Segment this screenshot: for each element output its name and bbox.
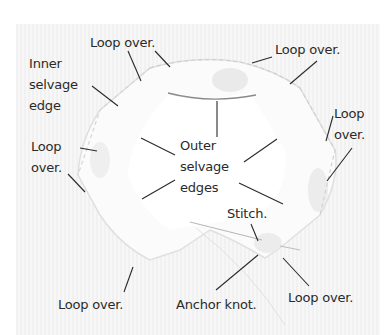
label-loop-over-right-line2: over.: [334, 127, 365, 143]
label-loop-over-left-line1: Loop: [31, 139, 62, 155]
label-inner-selvage-edge: Inner selvage edge: [29, 56, 78, 114]
label-outer-selvage-edges-line3: edges: [180, 180, 229, 196]
label-inner-selvage-edge-line3: edge: [29, 98, 78, 114]
label-loop-over-right: Loop over.: [334, 106, 365, 143]
label-inner-selvage-edge-line2: selvage: [29, 77, 78, 93]
label-outer-selvage-edges-line2: selvage: [180, 159, 229, 175]
label-stitch: Stitch.: [227, 206, 267, 222]
label-loop-over-bottom-right: Loop over.: [288, 290, 353, 306]
label-loop-over-left: Loop over.: [31, 139, 62, 176]
label-loop-over-right-line1: Loop: [334, 106, 365, 122]
label-outer-selvage-edges: Outer selvage edges: [180, 138, 229, 196]
label-outer-selvage-edges-line1: Outer: [180, 138, 229, 154]
label-loop-over-bottom-left: Loop over.: [58, 297, 123, 313]
label-loop-over-top-left: Loop over.: [90, 35, 155, 51]
label-anchor-knot: Anchor knot.: [176, 297, 257, 313]
label-inner-selvage-edge-line1: Inner: [29, 56, 78, 72]
label-loop-over-top-right: Loop over.: [275, 42, 340, 58]
label-loop-over-left-line2: over.: [31, 160, 62, 176]
